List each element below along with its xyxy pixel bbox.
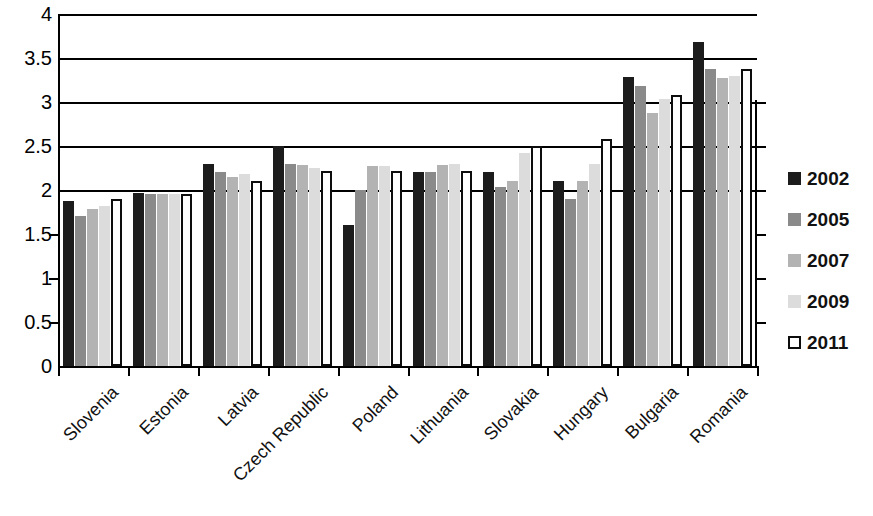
y-tick-mark-right <box>757 234 766 236</box>
bar[interactable] <box>133 193 144 366</box>
bar[interactable] <box>227 177 238 366</box>
y-tick-mark-right <box>757 322 766 324</box>
bar[interactable] <box>659 99 670 366</box>
y-axis-tick-label: 1.5 <box>0 224 52 244</box>
bar-group <box>617 14 687 366</box>
bar-group <box>547 14 617 366</box>
y-axis-tick-label: 3.5 <box>0 48 52 68</box>
bar[interactable] <box>671 95 682 366</box>
bar[interactable] <box>343 225 354 366</box>
legend-swatch-icon <box>788 336 801 349</box>
bar[interactable] <box>239 174 250 366</box>
y-axis-tick-label: 1 <box>0 268 52 288</box>
y-tick-mark <box>49 278 58 280</box>
bar[interactable] <box>203 164 214 366</box>
y-tick-mark-right <box>757 278 766 280</box>
bar[interactable] <box>553 181 564 366</box>
bar[interactable] <box>565 199 576 366</box>
y-tick-mark-right <box>757 190 766 192</box>
legend-label: 2009 <box>807 292 849 311</box>
y-axis-tick-label: 4 <box>0 4 52 24</box>
bar[interactable] <box>251 181 262 366</box>
y-tick-mark <box>49 234 58 236</box>
bar[interactable] <box>425 172 436 366</box>
bar-group <box>408 14 478 366</box>
bar[interactable] <box>285 164 296 366</box>
bar[interactable] <box>215 172 226 366</box>
bar[interactable] <box>379 166 390 366</box>
bar[interactable] <box>181 194 192 366</box>
legend-label: 2011 <box>807 333 848 352</box>
legend: 20022005200720092011 <box>788 158 873 363</box>
bar[interactable] <box>729 76 740 366</box>
legend-label: 2005 <box>807 210 849 229</box>
y-axis-tick-label: 3 <box>0 92 52 112</box>
legend-item[interactable]: 2009 <box>788 281 873 322</box>
bar[interactable] <box>145 194 156 366</box>
bar[interactable] <box>693 42 704 366</box>
bar-group <box>128 14 198 366</box>
legend-swatch-icon <box>788 213 801 226</box>
bar-group <box>268 14 338 366</box>
bar[interactable] <box>577 181 588 366</box>
bar-group <box>58 14 128 366</box>
bar[interactable] <box>507 181 518 366</box>
y-axis-tick-label: 0.5 <box>0 312 52 332</box>
bar[interactable] <box>111 199 122 366</box>
legend-item[interactable]: 2002 <box>788 158 873 199</box>
bar[interactable] <box>717 78 728 366</box>
bar[interactable] <box>413 172 424 366</box>
bar[interactable] <box>495 187 506 366</box>
bar[interactable] <box>483 172 494 366</box>
bar[interactable] <box>519 153 530 366</box>
y-axis-tick-label: 2.5 <box>0 136 52 156</box>
bar[interactable] <box>531 146 542 366</box>
plot-area <box>58 14 757 366</box>
x-axis-tick-label: Lithuania <box>406 382 473 449</box>
x-axis-tick-label: Hungary <box>550 382 613 445</box>
bar[interactable] <box>449 164 460 366</box>
y-tick-mark <box>49 322 58 324</box>
bar[interactable] <box>87 209 98 366</box>
bar[interactable] <box>437 165 448 366</box>
bar[interactable] <box>75 216 86 366</box>
bar[interactable] <box>63 201 74 366</box>
bar[interactable] <box>391 171 402 366</box>
bar[interactable] <box>741 69 752 366</box>
bar[interactable] <box>169 194 180 366</box>
bar[interactable] <box>157 194 168 366</box>
bar[interactable] <box>297 165 308 366</box>
legend-item[interactable]: 2005 <box>788 199 873 240</box>
bar[interactable] <box>589 164 600 366</box>
bar[interactable] <box>601 139 612 366</box>
x-axis-tick-label: Slovakia <box>480 382 543 445</box>
bar[interactable] <box>309 168 320 366</box>
bar[interactable] <box>705 69 716 366</box>
legend-label: 2007 <box>807 251 849 270</box>
bar-groups <box>58 14 757 366</box>
legend-label: 2002 <box>807 169 849 188</box>
bar[interactable] <box>367 166 378 366</box>
x-axis-tick-label: Bulgaria <box>621 382 683 444</box>
legend-item[interactable]: 2011 <box>788 322 873 363</box>
x-axis-tick-label: Estonia <box>136 382 193 439</box>
legend-swatch-icon <box>788 172 801 185</box>
legend-item[interactable]: 2007 <box>788 240 873 281</box>
x-axis-tick-label: Poland <box>348 382 402 436</box>
bar[interactable] <box>635 86 646 366</box>
legend-swatch-icon <box>788 295 801 308</box>
bar[interactable] <box>99 206 110 366</box>
y-axis-tick-label: 2 <box>0 180 52 200</box>
legend-swatch-icon <box>788 254 801 267</box>
bar[interactable] <box>623 77 634 366</box>
bar-group <box>198 14 268 366</box>
x-axis-tick-label: Slovenia <box>59 382 123 446</box>
bar[interactable] <box>647 113 658 366</box>
bar[interactable] <box>355 190 366 366</box>
bar[interactable] <box>461 171 472 366</box>
bar[interactable] <box>321 171 332 366</box>
bar-group <box>687 14 757 366</box>
bar[interactable] <box>273 146 284 366</box>
x-axis-labels: SloveniaEstoniaLatviaCzech RepublicPolan… <box>0 370 780 516</box>
bar-group <box>477 14 547 366</box>
